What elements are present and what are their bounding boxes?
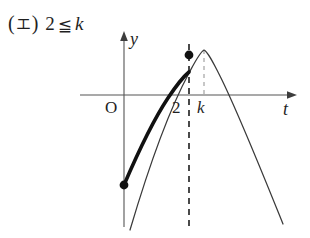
parabola-plot — [0, 0, 310, 238]
figure-root: ( エ ) 2 ≦ k y t O 2 k — [0, 0, 310, 238]
tick-label-k: k — [197, 99, 205, 116]
y-axis-label: y — [130, 30, 138, 48]
y-axis-arrowhead — [120, 31, 128, 41]
parabola-bold-segment — [124, 72, 189, 185]
t-axis-label: t — [283, 100, 288, 118]
y-axis — [120, 31, 128, 227]
endpoint-dot-t0 — [120, 181, 129, 190]
tick-label-2: 2 — [172, 99, 181, 116]
origin-label: O — [105, 99, 117, 116]
endpoint-dot-t2 — [185, 51, 194, 60]
parabola-curve-thin — [130, 50, 283, 230]
t-axis-arrowhead — [287, 91, 297, 99]
